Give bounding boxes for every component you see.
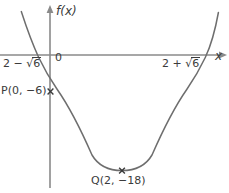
radicand-right: 6 (191, 57, 200, 69)
point-q-label: Q(2, −18) (91, 175, 145, 186)
parabola-graph-figure: f(x) x 0 2 − √6 2 + √6 P(0, −6) Q(2, −18… (0, 0, 229, 193)
x-intercept-right-label: 2 + √6 (162, 57, 200, 69)
radicand-left: 6 (32, 57, 41, 69)
sqrt-icon-left: √6 (26, 57, 41, 69)
x-intercept-left-prefix: 2 − (3, 57, 26, 70)
y-axis-label: f(x) (56, 5, 77, 17)
origin-label: 0 (55, 52, 62, 63)
x-intercept-right-prefix: 2 + (162, 57, 185, 70)
radical-sign: √ (185, 58, 192, 69)
x-axis-label: x (215, 50, 222, 62)
y-axis-arrow-icon (47, 5, 54, 13)
sqrt-icon-right: √6 (185, 57, 200, 69)
x-intercept-left-label: 2 − √6 (3, 57, 41, 69)
point-p-label: P(0, −6) (1, 85, 46, 96)
radical-sign: √ (26, 58, 33, 69)
